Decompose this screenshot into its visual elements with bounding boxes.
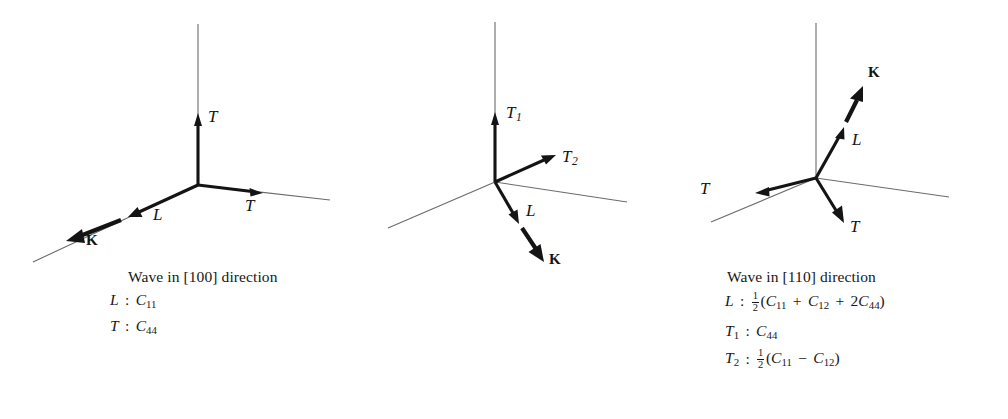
vector-K (522, 228, 544, 262)
label-T-left-111: T (700, 180, 709, 197)
label-T-right-100: T (245, 197, 254, 214)
label-K-100: K (86, 233, 98, 248)
label-T2-110: T2 (562, 148, 578, 168)
axis-left-thin (388, 182, 495, 228)
caption-block-100: Wave in [100] direction L : C11T : C44 (110, 268, 278, 336)
formula-l: L : C11 (110, 291, 278, 310)
vector-T-up (194, 113, 202, 185)
panel-wave-111: T T L K Wave in [111] direction L : 13(C… (672, 0, 1008, 419)
vector-T-right (198, 185, 263, 197)
vector-L (128, 185, 198, 217)
label-L-111: L (852, 131, 861, 148)
vector-L (816, 127, 845, 178)
formula-t: T : C44 (110, 317, 278, 336)
axes-diagram-111 (672, 0, 1008, 270)
vector-L (495, 182, 519, 224)
label-K-110: K (549, 252, 561, 267)
vector-T2 (495, 155, 556, 182)
label-T1-110: T1 (506, 104, 522, 124)
vector-T-left (755, 178, 816, 197)
caption-title-100: Wave in [100] direction (128, 268, 278, 286)
vector-T-lower (816, 178, 844, 223)
vector-T1 (491, 112, 499, 182)
label-L-100: L (153, 206, 162, 223)
panel-wave-110: T1 T2 L K Wave in [110] direction L : 12… (336, 0, 672, 419)
axes-diagram-110 (336, 0, 672, 270)
label-L-110: L (526, 202, 535, 219)
label-T-lower-111: T (850, 218, 859, 235)
formula-list-100: L : C11T : C44 (110, 291, 278, 336)
axes-diagram-100 (0, 0, 336, 270)
axis-right-thin (816, 178, 949, 197)
axis-left-thin (711, 178, 816, 222)
axis-right-thin (495, 182, 627, 202)
wave-modes-figure: T T L K Wave in [100] direction L : C11T… (0, 0, 1008, 419)
label-T-up-100: T (208, 108, 217, 125)
panel-wave-100: T T L K Wave in [100] direction L : C11T… (0, 0, 336, 419)
vector-K (846, 86, 863, 122)
label-K-111: K (868, 65, 880, 80)
